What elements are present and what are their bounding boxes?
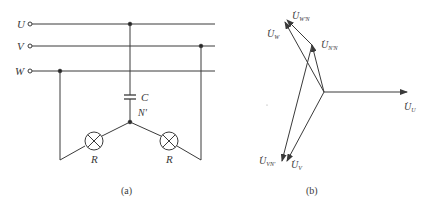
terminal-u-label: U (17, 19, 25, 30)
terminal-w-icon (28, 69, 32, 73)
label-u-v: ·UV (291, 160, 302, 171)
terminal-v-label: V (17, 41, 24, 52)
label-u-n-prime-n: ·UN'N (321, 40, 338, 51)
phasor-v (287, 92, 324, 161)
label-u-w: ·UW (267, 29, 279, 40)
label-u-w-prime-n: ·UW'N (292, 11, 310, 22)
label-u-u: ·UU (404, 102, 416, 113)
terminal-u-icon (28, 22, 32, 26)
caption-b: (b) (306, 186, 318, 196)
circuit-a (28, 22, 215, 160)
phasor-w (285, 22, 324, 92)
caption-a: (a) (121, 186, 132, 196)
label-u-v-n-prime: ·UVN' (259, 156, 275, 167)
neutral-label: N' (138, 108, 147, 118)
phasor-npn (312, 45, 324, 92)
terminal-w-label: W (15, 66, 24, 77)
diagram-canvas (0, 0, 430, 210)
stray-dot (266, 104, 267, 105)
phasor-vnp (282, 45, 312, 161)
lamp-left-label: R (91, 154, 98, 165)
capacitor-label: C (141, 92, 148, 103)
terminal-v-icon (28, 44, 32, 48)
lamp-right-label: R (166, 154, 173, 165)
